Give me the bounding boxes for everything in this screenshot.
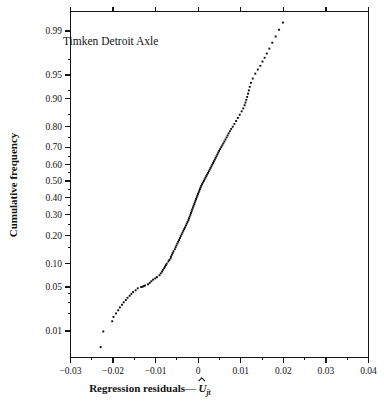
data-point <box>187 219 189 221</box>
y-tick-label-4: 0.30 <box>45 210 62 220</box>
data-point <box>259 65 261 67</box>
data-point <box>219 148 221 150</box>
x-axis-symbol-subscript: jt <box>205 388 211 397</box>
data-point <box>177 241 179 243</box>
data-point <box>268 48 270 50</box>
data-point <box>173 250 175 252</box>
data-point <box>182 232 184 234</box>
data-point <box>195 198 197 200</box>
data-point <box>130 293 132 295</box>
data-point <box>205 175 207 177</box>
data-point <box>179 237 181 239</box>
data-point <box>171 254 173 256</box>
data-point <box>178 239 180 241</box>
data-point <box>206 174 208 176</box>
data-point <box>187 221 189 223</box>
data-point <box>160 272 162 274</box>
series-annotation-label: Timken Detroit Axle <box>63 35 158 47</box>
data-point <box>113 316 115 318</box>
y-tick-label-2: 0.10 <box>45 259 62 269</box>
data-point <box>191 208 193 210</box>
data-point <box>257 69 259 71</box>
data-point <box>239 114 241 116</box>
data-point <box>152 279 154 281</box>
data-point <box>211 164 213 166</box>
data-point <box>156 276 158 278</box>
data-point <box>230 128 232 130</box>
y-tick-label-12: 0.99 <box>45 26 62 36</box>
data-point <box>184 226 186 228</box>
data-point <box>193 203 195 205</box>
probability-plot-svg: −0.03−0.02−0.0100.010.020.030.04 0.010.0… <box>0 0 384 405</box>
data-point <box>209 169 211 171</box>
data-point <box>225 139 227 141</box>
data-point <box>200 187 202 189</box>
data-point <box>242 107 244 109</box>
data-point <box>170 256 172 258</box>
data-point <box>174 248 176 250</box>
data-point <box>123 301 125 303</box>
x-tick-label-3: 0 <box>196 366 201 376</box>
data-point <box>217 152 219 154</box>
data-point <box>149 282 151 284</box>
data-point <box>147 283 149 285</box>
data-point <box>194 201 196 203</box>
data-point <box>216 155 218 157</box>
data-point <box>221 144 223 146</box>
x-tick-label-7: 0.04 <box>360 366 377 376</box>
data-point <box>189 216 191 218</box>
data-point <box>245 99 247 101</box>
data-point <box>215 157 217 159</box>
data-point <box>115 312 117 314</box>
data-point <box>220 146 222 148</box>
data-point <box>172 252 174 254</box>
data-point <box>250 82 252 84</box>
data-point <box>129 295 131 297</box>
y-tick-label-10: 0.90 <box>45 94 62 104</box>
x-axis-title-main: Regression residuals— <box>89 382 197 394</box>
data-point <box>166 263 168 265</box>
y-axis-tick-labels: 0.010.050.100.200.300.400.500.600.700.80… <box>45 26 62 336</box>
data-point <box>212 162 214 164</box>
data-point <box>189 214 191 216</box>
data-point <box>188 217 190 219</box>
x-tick-label-5: 0.02 <box>275 366 292 376</box>
data-point <box>228 132 230 134</box>
data-point <box>200 185 202 187</box>
data-point <box>162 269 164 271</box>
y-tick-label-9: 0.80 <box>45 122 62 132</box>
data-point <box>266 53 268 55</box>
data-point <box>121 304 123 306</box>
data-point <box>100 346 102 348</box>
data-point <box>135 289 137 291</box>
data-point <box>210 165 212 167</box>
data-point <box>190 212 192 214</box>
data-point <box>278 29 280 31</box>
y-tick-label-3: 0.20 <box>45 231 62 241</box>
data-point <box>137 287 139 289</box>
data-point <box>159 274 161 276</box>
y-tick-label-6: 0.50 <box>45 176 62 186</box>
data-point <box>237 117 239 119</box>
data-point <box>150 280 152 282</box>
data-point <box>246 96 248 98</box>
data-point <box>168 259 170 261</box>
data-point <box>132 291 134 293</box>
data-point <box>125 299 127 301</box>
data-point <box>186 223 188 225</box>
data-point <box>176 243 178 245</box>
data-point <box>205 177 207 179</box>
data-point <box>144 285 146 287</box>
data-point <box>210 167 212 169</box>
y-tick-label-5: 0.40 <box>45 193 62 203</box>
data-point <box>232 126 234 128</box>
data-point <box>192 207 194 209</box>
data-point <box>182 230 184 232</box>
data-point <box>249 86 251 88</box>
data-point <box>229 130 231 132</box>
data-point <box>180 235 182 237</box>
data-point <box>222 142 224 144</box>
data-point <box>183 228 185 230</box>
data-point <box>216 153 218 155</box>
data-point <box>235 120 237 122</box>
